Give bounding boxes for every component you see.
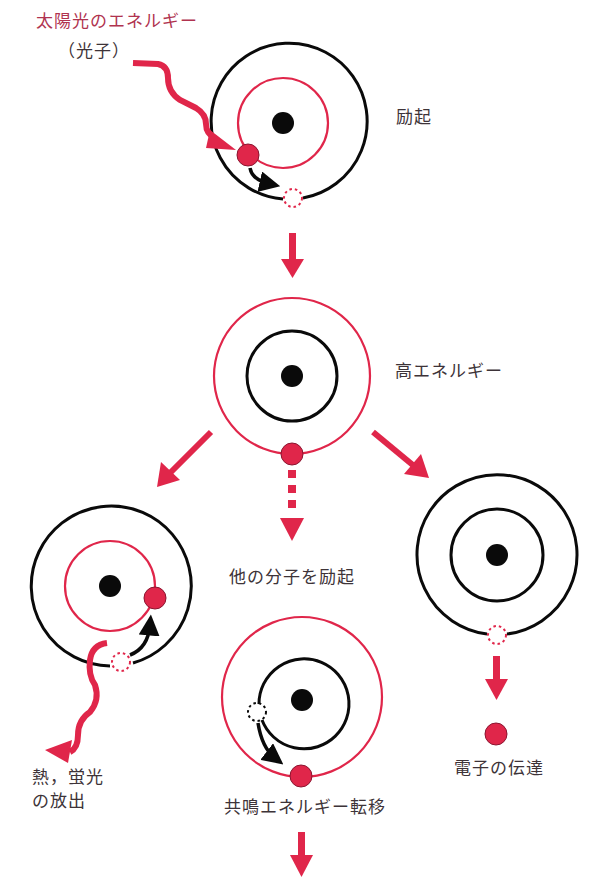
electron xyxy=(237,144,259,166)
resonance-transfer-atom xyxy=(222,617,382,787)
electron-vacancy-dashed xyxy=(248,703,266,721)
emission-wavy-arrow xyxy=(70,643,107,752)
label-high-energy: 高エネルギー xyxy=(395,360,503,382)
label-photon: （光子） xyxy=(58,40,130,62)
label-electron-transfer: 電子の伝達 xyxy=(454,757,544,779)
nucleus xyxy=(272,112,294,134)
electron-vacancy-dashed xyxy=(112,653,130,671)
sunlight-wavy-arrow xyxy=(133,63,236,150)
arrow-to-heat-atom xyxy=(157,432,211,487)
label-heat-fluorescence-2: の放出 xyxy=(32,790,86,812)
electron-vacancy-dashed xyxy=(284,189,302,207)
transferred-electron xyxy=(485,723,507,745)
heat-fluorescence-atom xyxy=(31,506,191,763)
electron xyxy=(281,443,303,465)
arrow-down-bottom xyxy=(290,832,313,877)
label-excite-other-molecules: 他の分子を励起 xyxy=(229,566,355,588)
energy-transfer-diagram xyxy=(0,0,600,883)
arrow-down-1 xyxy=(281,233,304,278)
nucleus xyxy=(281,365,303,387)
electron xyxy=(290,765,312,787)
dotted-arrow-to-resonance-atom xyxy=(280,470,304,541)
label-sunlight-energy: 太陽光のエネルギー xyxy=(36,10,198,32)
excitation-atom xyxy=(211,43,367,207)
label-heat-fluorescence-1: 熱，蛍光 xyxy=(32,766,104,788)
arrow-to-electron-transfer-atom xyxy=(373,432,429,478)
high-energy-atom xyxy=(214,298,370,465)
nucleus xyxy=(99,575,121,597)
electron-transfer-atom xyxy=(417,475,577,745)
electron-return-arrow xyxy=(130,625,150,655)
label-resonance-energy-transfer: 共鳴エネルギー転移 xyxy=(224,796,386,818)
electron-vacancy-dashed xyxy=(488,626,506,644)
nucleus xyxy=(291,689,313,711)
electron-jump-arrow xyxy=(250,168,270,184)
nucleus xyxy=(486,544,508,566)
electron xyxy=(144,587,166,609)
label-excitation: 励起 xyxy=(396,106,432,128)
